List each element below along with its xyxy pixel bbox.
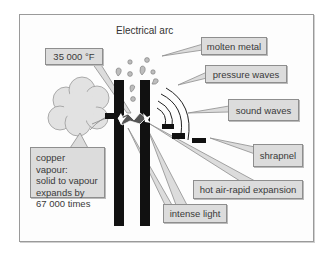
sound-waves-pointer bbox=[188, 106, 229, 113]
copper-vapour-line-2: solid to vapour bbox=[36, 175, 99, 187]
shrapnel-pointer bbox=[210, 138, 255, 154]
diagram-title: Electrical arc bbox=[116, 25, 173, 36]
pressure-waves-label: pressure waves bbox=[205, 65, 287, 83]
copper-vapour-cloud bbox=[48, 77, 109, 136]
shrapnel-pieces bbox=[162, 124, 206, 143]
copper-vapour-label: copper vapour: solid to vapour expands b… bbox=[30, 147, 105, 198]
molten-metal-label: molten metal bbox=[201, 37, 267, 55]
intense-light-label: intense light bbox=[163, 204, 227, 223]
copper-vapour-line-3: expands by bbox=[36, 187, 99, 199]
right-electrode bbox=[140, 80, 150, 226]
pressure-waves-pointer bbox=[178, 72, 207, 85]
pressure-waves bbox=[157, 88, 189, 140]
left-electrode bbox=[114, 80, 124, 226]
molten-metal-pointer bbox=[162, 44, 203, 56]
temperature-label: 35 000 °F bbox=[45, 48, 103, 65]
hot-air-label: hot air-rapid expansion bbox=[193, 180, 303, 199]
shrapnel-label: shrapnel bbox=[253, 144, 303, 167]
copper-vapour-line-1: copper vapour: bbox=[36, 152, 99, 175]
copper-vapour-line-4: 67 000 times bbox=[36, 198, 99, 210]
sound-waves-label: sound waves bbox=[228, 99, 299, 121]
